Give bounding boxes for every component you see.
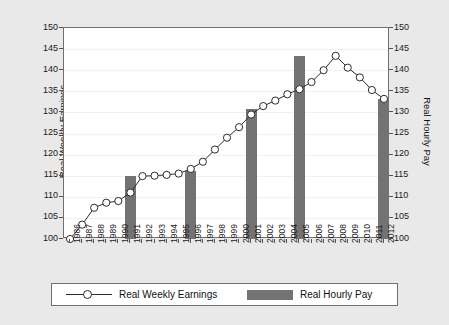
x-axis-tick-mark — [311, 239, 312, 243]
y-axis-tick-label: 135 — [394, 86, 429, 95]
y-axis-tick-label: 150 — [23, 23, 58, 32]
y-axis-tick-label: 130 — [394, 107, 429, 116]
data-point-marker — [308, 78, 315, 85]
y-axis-left-ticklabels: 150145140135130125120115110105100 — [23, 27, 58, 238]
x-axis-tick-mark — [214, 239, 215, 243]
data-point-marker — [223, 134, 230, 141]
x-axis-tick-mark — [335, 239, 336, 243]
chart-legend: Real Weekly Earnings Real Hourly Pay — [51, 283, 398, 306]
x-axis-tick-mark — [262, 239, 263, 243]
x-axis-tick-mark — [69, 239, 70, 243]
x-axis-tick-mark — [105, 239, 106, 243]
x-axis-tick-mark — [347, 239, 348, 243]
data-point-marker — [151, 172, 158, 179]
legend-label-real-weekly-earnings: Real Weekly Earnings — [119, 289, 217, 300]
x-axis-tick-mark — [238, 239, 239, 243]
data-point-marker — [368, 86, 375, 93]
legend-item-real-hourly-pay: Real Hourly Pay — [247, 284, 372, 305]
x-axis-tick-mark — [274, 239, 275, 243]
data-point-marker — [356, 74, 363, 81]
x-axis-tick-mark — [166, 239, 167, 243]
x-axis-tick-label: 2012 — [387, 224, 396, 243]
y-axis-tick-label: 110 — [23, 191, 58, 200]
data-point-marker — [380, 95, 387, 102]
y-axis-tick-label: 125 — [23, 128, 58, 137]
line-path — [70, 56, 384, 239]
x-axis-tick-mark — [202, 239, 203, 243]
data-point-marker — [139, 173, 146, 180]
data-point-marker — [175, 170, 182, 177]
data-point-marker — [320, 67, 327, 74]
plot-area — [63, 27, 389, 238]
x-axis-tick-mark — [383, 239, 384, 243]
data-point-marker — [199, 158, 206, 165]
y-axis-tick-label: 125 — [394, 128, 429, 137]
x-axis-ticklabels: 1986198719881989199019911992199319941995… — [63, 239, 389, 279]
y-axis-tick-label: 120 — [23, 149, 58, 158]
y-axis-tick-label: 145 — [23, 44, 58, 53]
x-axis-tick-mark — [93, 239, 94, 243]
data-point-marker — [211, 146, 218, 153]
y-axis-tick-label: 115 — [394, 170, 429, 179]
line-marker-swatch-icon — [66, 289, 112, 301]
legend-item-real-weekly-earnings: Real Weekly Earnings — [66, 284, 217, 305]
x-axis-tick-mark — [81, 239, 82, 243]
x-axis-tick-mark — [178, 239, 179, 243]
y-axis-tick-label: 135 — [23, 86, 58, 95]
x-axis-tick-mark — [154, 239, 155, 243]
y-axis-tick-label: 115 — [23, 170, 58, 179]
y-axis-tick-label: 145 — [394, 44, 429, 53]
bar-swatch-icon — [247, 290, 293, 300]
y-axis-tick-label: 105 — [394, 212, 429, 221]
legend-label-real-hourly-pay: Real Hourly Pay — [300, 289, 372, 300]
data-point-marker — [296, 86, 303, 93]
data-point-marker — [344, 64, 351, 71]
x-axis-tick-mark — [359, 239, 360, 243]
y-axis-tick-label: 140 — [394, 65, 429, 74]
x-axis-tick-mark — [129, 239, 130, 243]
y-axis-tick-label: 100 — [23, 234, 58, 243]
x-axis-tick-mark — [371, 239, 372, 243]
data-point-marker — [248, 111, 255, 118]
data-point-marker — [115, 197, 122, 204]
data-point-marker — [272, 97, 279, 104]
data-point-marker — [103, 199, 110, 206]
data-point-marker — [187, 165, 194, 172]
data-point-marker — [127, 189, 134, 196]
x-axis-tick-mark — [298, 239, 299, 243]
y-axis-tick-label: 120 — [394, 149, 429, 158]
x-axis-tick-mark — [286, 239, 287, 243]
y-axis-tick-label: 110 — [394, 191, 429, 200]
y-axis-tick-label: 100 — [394, 234, 429, 243]
y-axis-tick-label: 105 — [23, 212, 58, 221]
y-axis-right-ticklabels: 150145140135130125120115110105100 — [394, 27, 429, 238]
x-axis-tick-mark — [141, 239, 142, 243]
data-point-marker — [163, 171, 170, 178]
y-axis-tick-label: 130 — [23, 107, 58, 116]
y-axis-tick-label: 140 — [23, 65, 58, 74]
chart-figure: Real Weekly Earnings Real Hourly Pay 150… — [0, 0, 449, 325]
x-axis-tick-mark — [117, 239, 118, 243]
data-point-marker — [91, 204, 98, 211]
y-axis-tick-label: 150 — [394, 23, 429, 32]
line-markers — [66, 52, 387, 242]
x-axis-tick-mark — [250, 239, 251, 243]
data-point-marker — [284, 91, 291, 98]
data-point-marker — [332, 52, 339, 59]
data-point-marker — [260, 102, 267, 109]
x-axis-tick-mark — [226, 239, 227, 243]
line-series-real-weekly-earnings — [64, 28, 390, 239]
data-point-marker — [235, 124, 242, 131]
x-axis-tick-mark — [323, 239, 324, 243]
x-axis-tick-mark — [190, 239, 191, 243]
